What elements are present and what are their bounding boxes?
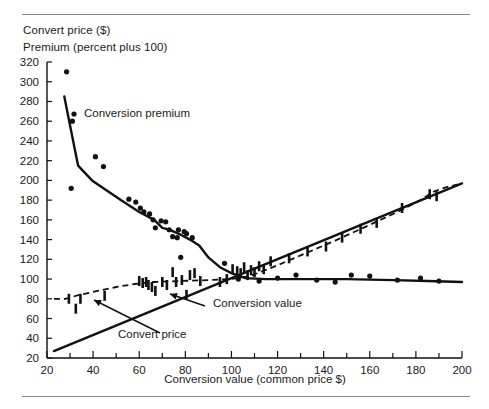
data-point (133, 200, 138, 205)
data-point (314, 277, 319, 282)
y-tick-label: 120 (20, 253, 39, 265)
y-tick-label: 140 (20, 234, 39, 246)
data-point (257, 278, 262, 283)
x-tick-label: 20 (41, 364, 54, 376)
data-point (64, 69, 69, 74)
chart-canvas: 2040608010012014016018020022024026028030… (0, 0, 489, 409)
x-tick-label: 160 (360, 364, 379, 376)
y-tick-label: 40 (26, 332, 39, 344)
data-point (275, 275, 280, 280)
data-point (176, 227, 181, 232)
data-point (367, 274, 372, 279)
data-point (395, 277, 400, 282)
y-tick-label: 200 (20, 174, 39, 186)
series-conversion-premium (64, 69, 227, 266)
x-axis-title: Conversion value (common price $) (164, 373, 346, 385)
y-tick-label: 160 (20, 214, 39, 226)
data-point (153, 225, 158, 230)
y-tick-label: 80 (26, 293, 39, 305)
annotation-conversion-premium: Conversion premium (84, 107, 190, 119)
conversion-premium-marker-dot (71, 111, 76, 116)
data-point (159, 218, 164, 223)
annotation-convert-price: Convert price (118, 328, 186, 340)
data-point (349, 273, 354, 278)
conversion-value-leader-head (170, 293, 178, 299)
y-tick-label: 220 (20, 155, 39, 167)
y-tick-label: 100 (20, 273, 39, 285)
data-point (126, 197, 131, 202)
y-tick-label: 180 (20, 194, 39, 206)
y-tick-label: 240 (20, 135, 39, 147)
data-point (175, 235, 180, 240)
data-point (333, 279, 338, 284)
x-tick-label: 40 (87, 364, 100, 376)
y-tick-label: 20 (26, 352, 39, 364)
data-point (93, 154, 98, 159)
data-point (138, 205, 143, 210)
y-tick-label: 260 (20, 115, 39, 127)
annotation-conversion-value: Conversion value (213, 297, 302, 309)
data-point (418, 275, 423, 280)
y-tick-label: 320 (20, 56, 39, 68)
x-tick-label: 60 (133, 364, 146, 376)
chart-annotation-layer: Conversion premiumConversion valueConver… (71, 107, 301, 340)
data-point (222, 261, 227, 266)
y-tick-label: 60 (26, 313, 39, 325)
series-conversion-premium-curve (64, 97, 462, 283)
x-tick-label: 200 (452, 364, 471, 376)
data-point (178, 255, 183, 260)
data-point (236, 276, 241, 281)
data-point (69, 186, 74, 191)
data-point (293, 273, 298, 278)
series-line-solid (64, 97, 462, 283)
x-tick-label: 180 (406, 364, 425, 376)
data-point (436, 278, 441, 283)
y-tick-label: 300 (20, 76, 39, 88)
data-point (163, 219, 168, 224)
y-tick-label: 280 (20, 95, 39, 107)
data-point (170, 234, 175, 239)
data-point (101, 164, 106, 169)
series-convert-price-observations (69, 189, 437, 313)
